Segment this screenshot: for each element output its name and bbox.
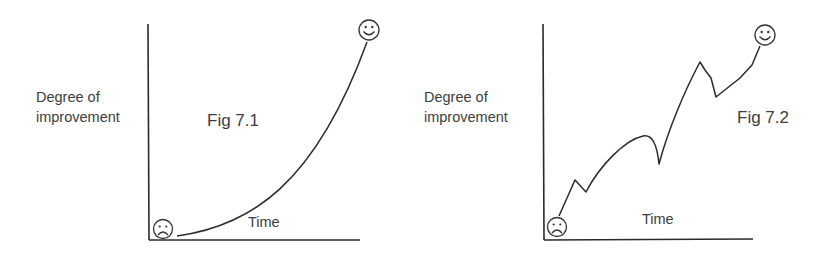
fig-7-1-x-label: Time — [248, 214, 280, 230]
fig-7-2-y-axis — [543, 24, 544, 240]
fig-7-1-title: Fig 7.1 — [207, 111, 259, 131]
fig-7-1-y-label-line2: improvement — [36, 107, 120, 127]
happy-face-icon — [755, 25, 775, 45]
fig-7-2-x-axis — [544, 239, 753, 240]
fig-7-2-improvement-curve — [559, 46, 760, 216]
fig-7-2-x-label: Time — [642, 211, 674, 227]
happy-face-icon — [359, 20, 379, 40]
fig-7-1-y-axis — [148, 24, 149, 240]
fig-7-2-y-label-line1: Degree of — [424, 87, 488, 107]
fig-7-1-y-label-line1: Degree of — [36, 87, 100, 107]
diagrams-canvas — [0, 0, 838, 253]
fig-7-2-title: Fig 7.2 — [737, 108, 789, 128]
fig-7-2-graph — [543, 24, 775, 240]
sad-face-icon — [548, 218, 567, 237]
fig-7-1-improvement-curve — [177, 42, 367, 236]
fig-7-1-graph — [148, 20, 379, 240]
sad-face-icon — [154, 220, 173, 239]
fig-7-2-y-label-line2: improvement — [424, 107, 508, 127]
